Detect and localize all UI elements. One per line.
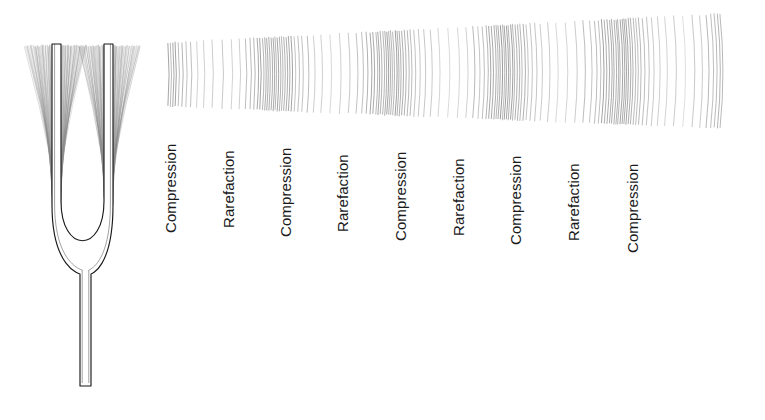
wavefront-lines xyxy=(168,14,723,128)
tuning-fork-wave-figure: CompressionRarefactionCompressionRarefac… xyxy=(0,0,765,420)
sound-wave-graphic xyxy=(0,0,765,420)
